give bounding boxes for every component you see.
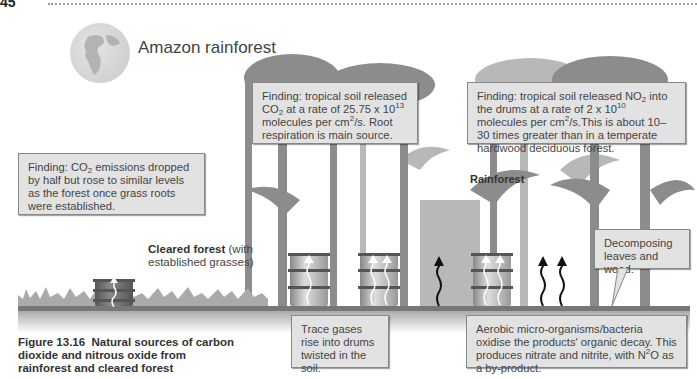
gas-collection-drum [290,253,328,306]
callout-pointer [610,268,640,308]
decomposing-box: Decomposing leaves and wood. [594,229,690,269]
figure-label: Figure 13.16 [18,336,85,348]
rainforest-label: Rainforest [470,173,524,185]
grass-illustration [18,285,268,307]
gas-rise-arrow-icon [536,256,550,306]
cleared-forest-bold: Cleared forest [148,243,225,255]
header-dotted-rule [48,3,697,5]
gas-rise-arrow-icon [432,256,446,306]
aerobic-box: Aerobic micro-organisms/bacteria oxidise… [466,315,687,368]
page-number: 45 [0,0,16,10]
cleared-forest-label: Cleared forest (with established grasses… [148,243,288,269]
gas-collection-drum [95,279,133,306]
gas-rise-arrow-icon [555,256,569,306]
co2-finding-box: Finding: tropical soil released CO2 at a… [252,82,418,144]
gas-collection-drum [473,253,511,306]
gas-collection-drum [360,253,398,306]
figure-caption: Figure 13.16 Natural sources of carbon d… [18,336,238,375]
no2-finding-box: Finding: tropical soil released NO2 into… [467,82,686,144]
globe-icon [70,23,130,83]
trace-gases-box: Trace gases rise into drums twisted in t… [291,315,389,368]
cleared-finding-box: Finding: CO2 emissions dropped by half b… [18,153,205,215]
